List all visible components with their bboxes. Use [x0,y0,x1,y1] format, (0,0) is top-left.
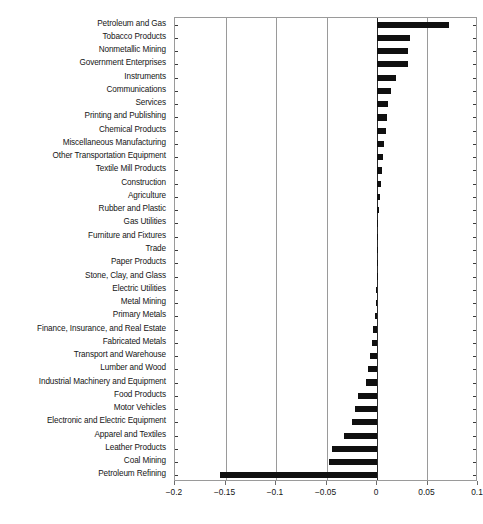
category-label: Motor Vehicles [114,403,166,412]
category-label: Rubber and Plastic [99,204,166,213]
bar [376,300,377,306]
category-label: Paper Products [111,257,166,266]
y-axis-tick [175,78,178,79]
x-axis-tick-label: −0.2 [166,487,183,497]
y-axis-tick [175,396,178,397]
bar [377,75,396,81]
category-label: Transport and Warehouse [74,350,166,359]
y-axis-tick [473,38,476,39]
category-label: Instruments [124,72,166,81]
y-axis-tick [175,369,178,370]
bar [373,326,377,332]
gridline [427,18,428,480]
category-label: Printing and Publishing [85,111,166,120]
category-label: Lumber and Wood [100,363,166,372]
bar [352,419,377,425]
category-label: Fabricated Metals [103,337,166,346]
y-axis-tick [175,263,178,264]
bar [332,446,377,452]
y-axis-tick [175,117,178,118]
x-axis-tick-label: 0.1 [471,487,483,497]
bar [377,61,408,67]
y-axis-tick [175,462,178,463]
bar [377,181,381,187]
y-axis-tick [473,436,476,437]
y-axis-tick [175,104,178,105]
y-axis-tick [175,131,178,132]
y-axis-tick [175,184,178,185]
category-label: Electric Utilities [112,284,166,293]
y-axis-tick [175,449,178,450]
y-axis-tick [473,250,476,251]
category-label: Other Transportation Equipment [52,151,166,160]
x-axis-tick [326,481,327,485]
x-axis-tick [427,481,428,485]
category-label: Industrial Machinery and Equipment [39,377,166,386]
bar [377,22,449,28]
y-axis-tick [175,250,178,251]
x-axis-tick [376,481,377,485]
bar [377,154,383,160]
y-axis-tick [175,51,178,52]
bar [377,220,378,226]
category-label: Miscellaneous Manufacturing [63,138,166,147]
y-axis-tick [473,330,476,331]
y-axis-tick [473,78,476,79]
bar [375,313,377,319]
y-axis-tick [473,356,476,357]
gridline [327,18,328,480]
y-axis-tick [473,197,476,198]
y-axis-tick [473,64,476,65]
category-label: Furniture and Fixtures [88,231,166,240]
y-axis-tick [473,237,476,238]
x-axis-tick [275,481,276,485]
gridline [226,18,227,480]
y-axis-tick [175,157,178,158]
y-axis-tick [175,144,178,145]
bar [329,459,377,465]
y-axis-tick [175,356,178,357]
y-axis-tick [175,330,178,331]
y-axis-tick [175,197,178,198]
bar [377,273,378,279]
category-label: Stone, Clay, and Glass [85,271,166,280]
category-label: Services [135,98,166,107]
y-axis-tick [175,64,178,65]
y-axis-tick [473,51,476,52]
y-axis-tick [175,316,178,317]
y-axis-tick [473,462,476,463]
category-label: Government Enterprises [79,58,166,67]
x-axis-tick-label: 0.05 [418,487,434,497]
y-axis-tick [473,303,476,304]
y-axis-tick [473,184,476,185]
x-axis-tick [174,481,175,485]
category-label: Petroleum and Gas [97,19,166,28]
y-axis-tick [175,223,178,224]
x-axis-tick [477,481,478,485]
y-axis-tick [175,290,178,291]
y-axis-tick [473,383,476,384]
bar [368,366,377,372]
y-axis-tick [473,277,476,278]
bar [366,379,377,385]
y-axis-tick [473,369,476,370]
gridline [276,18,277,480]
bar [377,101,388,107]
bar [377,114,387,120]
bar [377,207,379,213]
y-axis-tick [473,210,476,211]
y-axis-tick [175,383,178,384]
bar [377,88,391,94]
x-axis-tick-label: −0.1 [267,487,284,497]
y-axis-tick [175,409,178,410]
bar [372,340,377,346]
category-label: Finance, Insurance, and Real Estate [37,324,166,333]
x-axis-tick-label: −0.15 [214,487,235,497]
y-axis-tick [473,316,476,317]
y-axis-tick [473,131,476,132]
category-label: Textile Mill Products [96,164,166,173]
y-axis-tick [473,422,476,423]
y-axis-tick [473,449,476,450]
y-axis-tick [473,157,476,158]
category-label: Gas Utilities [124,217,166,226]
